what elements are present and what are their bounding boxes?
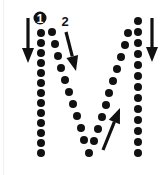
letter-m-tracing-worksheet: 1 2	[0, 0, 167, 175]
trace-dot	[117, 53, 125, 61]
trace-dot	[37, 149, 45, 157]
trace-dot	[54, 52, 62, 60]
left-down-arrow-icon	[22, 18, 34, 63]
trace-dot	[134, 28, 142, 36]
trace-dot	[80, 136, 88, 144]
trace-dot	[57, 64, 65, 72]
trace-dot	[98, 113, 106, 121]
trace-dot	[37, 139, 45, 147]
trace-dot	[69, 100, 77, 108]
trace-dot	[37, 39, 45, 47]
trace-dot	[134, 149, 142, 157]
trace-dot	[37, 109, 45, 117]
trace-dot	[65, 88, 73, 96]
stroke-left-vertical	[37, 29, 45, 157]
trace-dot	[37, 69, 45, 77]
trace-dot	[109, 77, 117, 85]
trace-dot	[90, 137, 98, 145]
stroke-right-vertical	[134, 17, 142, 157]
diagonal-down-arrow-icon	[64, 32, 78, 71]
trace-dot	[113, 65, 121, 73]
right-down-arrow-icon	[146, 18, 158, 62]
trace-dot	[134, 61, 142, 69]
trace-dot	[77, 124, 85, 132]
trace-dot	[134, 116, 142, 124]
trace-dot	[37, 49, 45, 57]
stroke-1-number: 1	[37, 12, 44, 26]
trace-dot	[134, 83, 142, 91]
trace-dot	[102, 101, 110, 109]
trace-dot	[51, 40, 59, 48]
letter-m-dot-figure: 1 2	[0, 0, 167, 175]
stroke-number-labels: 1 2	[34, 12, 69, 30]
trace-dot	[94, 125, 102, 133]
trace-dot	[134, 72, 142, 80]
trace-dot	[134, 17, 142, 25]
trace-dot	[37, 129, 45, 137]
trace-dot	[134, 138, 142, 146]
trace-dot	[37, 79, 45, 87]
trace-dot	[37, 59, 45, 67]
trace-dot	[134, 94, 142, 102]
trace-dot	[61, 76, 69, 84]
trace-dot	[73, 112, 81, 120]
trace-dot	[37, 89, 45, 97]
trace-dot	[37, 119, 45, 127]
trace-dot	[48, 28, 56, 36]
trace-dot	[37, 29, 45, 37]
trace-dot	[85, 149, 93, 157]
trace-dot	[121, 41, 129, 49]
stroke-2-number: 2	[61, 14, 68, 29]
dot-strokes	[37, 17, 142, 157]
trace-dot	[37, 99, 45, 107]
trace-dot	[124, 29, 132, 37]
trace-dot	[134, 127, 142, 135]
trace-dot	[134, 50, 142, 58]
trace-dot	[105, 89, 113, 97]
trace-dot	[134, 105, 142, 113]
trace-dot	[134, 39, 142, 47]
